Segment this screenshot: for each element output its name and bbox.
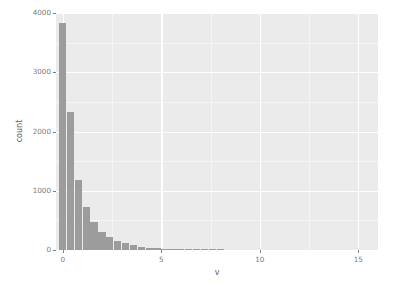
- gridline-major-horizontal: [56, 132, 378, 133]
- gridline-major-horizontal: [56, 191, 378, 192]
- histogram-bar: [130, 245, 137, 250]
- histogram-bar: [138, 247, 145, 250]
- gridline-minor-horizontal: [56, 220, 378, 221]
- histogram-bar: [193, 249, 200, 250]
- x-axis-tick-mark: [260, 250, 261, 253]
- x-axis-tick-label: 5: [159, 256, 164, 263]
- y-axis-tick-label: 0: [46, 246, 51, 253]
- y-axis-tick-label: 1000: [33, 187, 51, 194]
- histogram-bar: [98, 232, 105, 250]
- x-axis-title: v: [215, 269, 220, 277]
- y-axis-tick-label: 2000: [33, 128, 51, 135]
- y-axis-tick-mark: [53, 250, 56, 251]
- y-axis-tick-label: 4000: [33, 9, 51, 16]
- histogram-bar: [122, 243, 129, 250]
- histogram-bar: [153, 248, 160, 250]
- y-axis-tick-label: 3000: [33, 69, 51, 76]
- gridline-minor-horizontal: [56, 43, 378, 44]
- x-axis-tick-mark: [358, 250, 359, 253]
- histogram-bar: [146, 248, 153, 250]
- histogram-bar: [114, 241, 121, 250]
- histogram-bar: [83, 207, 90, 250]
- plot-panel: [56, 13, 378, 250]
- gridline-major-vertical: [260, 13, 261, 250]
- histogram-bar: [177, 249, 184, 250]
- y-axis-title: count: [16, 120, 24, 143]
- histogram-bar: [209, 249, 216, 250]
- x-axis-tick-label: 10: [255, 256, 264, 263]
- histogram-bar: [106, 237, 113, 250]
- x-axis-tick-mark: [161, 250, 162, 253]
- histogram-bar: [90, 222, 97, 250]
- y-axis-tick-mark: [53, 132, 56, 133]
- gridline-minor-horizontal: [56, 161, 378, 162]
- histogram-bar: [75, 180, 82, 251]
- gridline-major-horizontal: [56, 72, 378, 73]
- gridline-minor-horizontal: [56, 102, 378, 103]
- histogram-bar: [169, 249, 176, 250]
- x-axis-tick-label: 15: [354, 256, 363, 263]
- gridline-major-vertical: [161, 13, 162, 250]
- histogram-bar: [67, 112, 74, 250]
- histogram-bar: [201, 249, 208, 250]
- x-axis-tick-label: 0: [61, 256, 66, 263]
- y-axis-tick-mark: [53, 13, 56, 14]
- histogram-bar: [217, 249, 224, 250]
- histogram-bar: [185, 249, 192, 250]
- histogram-bar: [59, 23, 66, 250]
- histogram-bar: [161, 249, 168, 250]
- y-axis-tick-mark: [53, 72, 56, 73]
- x-axis-tick-mark: [63, 250, 64, 253]
- histogram-figure: 01000200030004000 count 051015 v: [0, 0, 394, 292]
- y-axis-tick-mark: [53, 191, 56, 192]
- gridline-major-horizontal: [56, 13, 378, 14]
- gridline-major-vertical: [358, 13, 359, 250]
